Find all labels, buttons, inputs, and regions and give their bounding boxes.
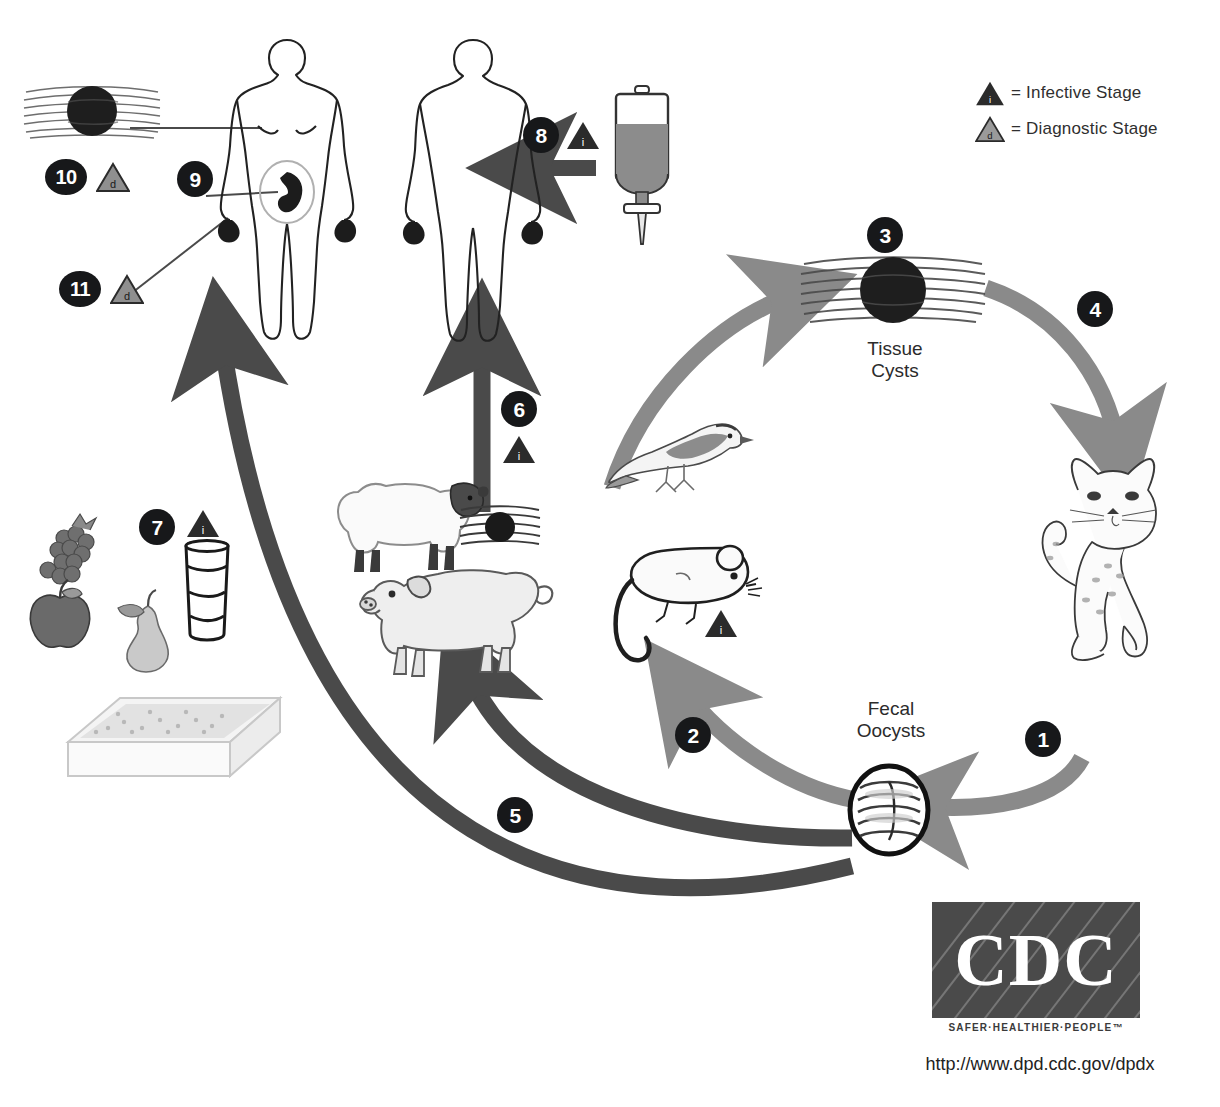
cdc-tagline: SAFER·HEALTHIER·PEOPLE™ (932, 1022, 1140, 1033)
fecal-oocysts-label: Fecal Oocysts (806, 698, 976, 743)
pig-figure (356, 552, 556, 680)
step-badge-5: 5 (498, 798, 532, 832)
step-7-infective-triangle-icon: i (186, 508, 220, 538)
cdc-logo: CDC (932, 902, 1140, 1018)
tissue-cyst-meat-icon (458, 500, 542, 554)
cat-litter-box-icon (58, 676, 288, 796)
diagnostic-stage-triangle-icon: d (975, 116, 1005, 142)
step-11-diagnostic-triangle-icon: d (110, 274, 144, 304)
fetus-shape (278, 172, 302, 212)
svg-text:d: d (987, 130, 992, 141)
svg-text:i: i (989, 94, 991, 105)
tissue-cyst-human-icon (22, 78, 162, 148)
step-badge-1: 1 (1026, 722, 1060, 756)
tissue-cysts-label: Tissue Cysts (810, 338, 980, 383)
tissue-cysts-cycle-icon (798, 248, 988, 336)
bird-figure (604, 408, 754, 518)
step-badge-9: 9 (178, 162, 212, 196)
life-cycle-diagram: i = Infective Stage d = Diagnostic Stage (0, 0, 1220, 1107)
mouse-figure (606, 528, 766, 668)
water-glass-icon (178, 536, 236, 646)
step-badge-2: 2 (676, 718, 710, 752)
svg-text:i: i (720, 624, 722, 636)
cdc-logo-text: CDC (932, 902, 1140, 1018)
fruit-apple-icon (22, 578, 98, 654)
infective-stage-triangle-icon: i (975, 80, 1005, 106)
step-8-infective-triangle-icon: i (566, 120, 600, 150)
arrow-step-1 (920, 758, 1082, 807)
step-10-diagnostic-triangle-icon: d (96, 162, 130, 192)
legend-item-diagnostic: d = Diagnostic Stage (975, 114, 1158, 144)
step-badge-8: 8 (524, 118, 558, 152)
human-female-pregnant-figure (212, 34, 362, 344)
fruit-pear-icon (98, 588, 190, 674)
mouse-infective-triangle-icon: i (704, 608, 738, 638)
svg-text:d: d (110, 178, 116, 190)
fecal-oocyst-icon (846, 762, 932, 858)
legend: i = Infective Stage d = Diagnostic Stage (975, 78, 1158, 150)
cdc-url[interactable]: http://www.dpd.cdc.gov/dpdx (905, 1054, 1175, 1075)
step-badge-3: 3 (868, 218, 902, 252)
step-badge-4: 4 (1078, 292, 1112, 326)
step-badge-11: 11 (60, 272, 100, 306)
human-male-figure (398, 34, 548, 344)
step-badge-7: 7 (140, 510, 174, 544)
svg-text:i: i (202, 524, 204, 536)
legend-label-diagnostic: = Diagnostic Stage (1011, 119, 1158, 139)
legend-label-infective: = Infective Stage (1011, 83, 1142, 103)
svg-text:i: i (582, 136, 584, 148)
legend-item-infective: i = Infective Stage (975, 78, 1158, 108)
step-6-infective-triangle-icon: i (502, 434, 536, 464)
svg-text:i: i (518, 450, 520, 462)
cat-figure (1020, 448, 1200, 678)
svg-text:d: d (124, 290, 130, 302)
step-badge-6: 6 (502, 392, 536, 426)
blood-transfusion-bag-icon (602, 82, 682, 247)
step-badge-10: 10 (46, 160, 86, 194)
